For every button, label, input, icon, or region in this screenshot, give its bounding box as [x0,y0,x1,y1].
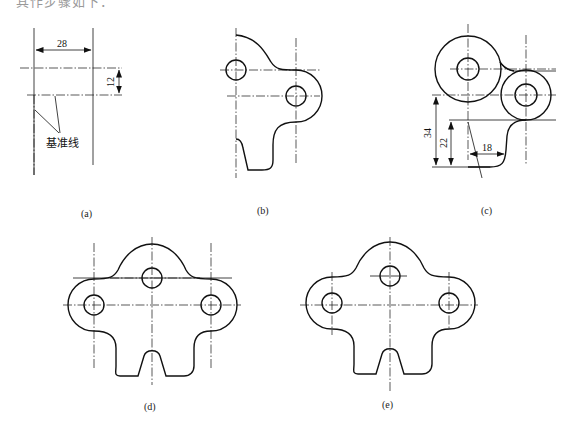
caption-d: (d) [144,401,156,412]
caption-a: (a) [81,208,92,219]
dimension-12: 12 [105,77,116,87]
figure-d [63,237,241,385]
dimension-22: 22 [438,138,449,148]
caption-e: (e) [382,399,393,410]
datum-line-label: 基准线 [46,136,79,150]
dimension-18: 18 [482,142,492,153]
caption-c: (c) [481,205,492,216]
figure-e [300,237,478,392]
figure-a: 28 12 基准线 [20,28,122,175]
dimension-34: 34 [422,128,433,138]
figure-b [220,28,322,178]
caption-b: (b) [257,205,269,216]
dimension-28: 28 [57,38,67,49]
figure-c: 34 22 18 [422,24,556,178]
